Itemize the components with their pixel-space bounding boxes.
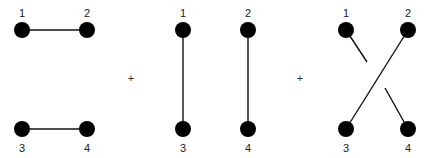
node-label-4: 4	[405, 142, 411, 154]
node-4	[400, 121, 416, 137]
panel-vertical-pairing: 1 2 3 4	[175, 7, 256, 154]
plus-operator-2: +	[297, 72, 303, 84]
panel-horizontal-pairing: 1 2 3 4	[14, 7, 95, 154]
node-3	[175, 121, 191, 137]
node-2	[79, 22, 95, 38]
node-1	[338, 22, 354, 38]
node-1	[14, 22, 30, 38]
node-label-1: 1	[180, 7, 186, 19]
pairing-diagram: 1 2 3 4 + 1 2 3 4 + 1 2 3 4	[0, 0, 435, 158]
node-label-2: 2	[405, 7, 411, 19]
panel-crossed-pairing: 1 2 3 4	[338, 7, 416, 154]
node-4	[79, 121, 95, 137]
plus-operator-1: +	[128, 72, 134, 84]
node-label-3: 3	[19, 142, 25, 154]
node-4	[240, 121, 256, 137]
node-3	[338, 121, 354, 137]
node-2	[400, 22, 416, 38]
node-label-4: 4	[84, 142, 90, 154]
node-1	[175, 22, 191, 38]
node-label-2: 2	[245, 7, 251, 19]
node-label-2: 2	[84, 7, 90, 19]
node-label-1: 1	[343, 7, 349, 19]
node-label-1: 1	[19, 7, 25, 19]
node-label-3: 3	[180, 142, 186, 154]
node-label-3: 3	[343, 142, 349, 154]
node-label-4: 4	[245, 142, 251, 154]
node-2	[240, 22, 256, 38]
node-3	[14, 121, 30, 137]
